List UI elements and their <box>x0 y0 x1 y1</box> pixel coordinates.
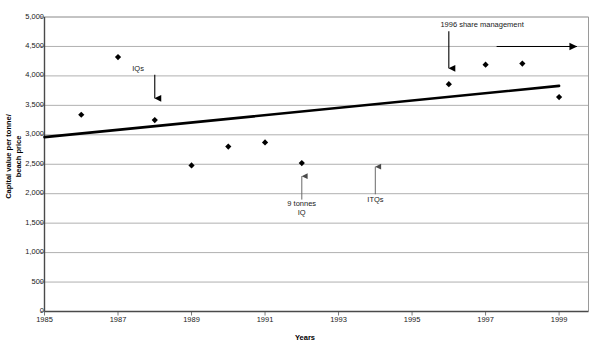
data-point-marker <box>115 54 121 60</box>
data-point-marker <box>225 143 231 149</box>
annotation-label-iqs: IQs <box>132 64 144 73</box>
data-point-marker <box>152 117 158 123</box>
annotation-label-nine-tonnes-iq: 9 tonnesIQ <box>287 199 316 217</box>
data-point-marker <box>299 160 305 166</box>
data-point-marker <box>188 162 194 168</box>
annotation-label-itqs: ITQs <box>367 195 383 204</box>
trend-line-path <box>45 86 560 137</box>
data-point-marker <box>556 94 562 100</box>
data-point-marker <box>78 112 84 118</box>
data-point-marker <box>482 62 488 68</box>
chart-figure: Capital value per tonne/ beach price 5,0… <box>0 0 610 347</box>
annotation-arrows <box>155 31 577 199</box>
annotation-label-nine-tonnes-iq-line1: 9 tonnes <box>287 199 316 208</box>
annotation-label-nine-tonnes-iq-line2: IQ <box>287 208 316 217</box>
plot-area <box>0 0 610 347</box>
data-point-marker <box>446 81 452 87</box>
trend-line <box>45 86 560 137</box>
gridlines <box>45 17 589 282</box>
data-point-marker <box>519 60 525 66</box>
annotation-label-share-management: 1996 share management <box>440 20 523 29</box>
data-point-marker <box>262 139 268 145</box>
data-points <box>78 54 562 169</box>
